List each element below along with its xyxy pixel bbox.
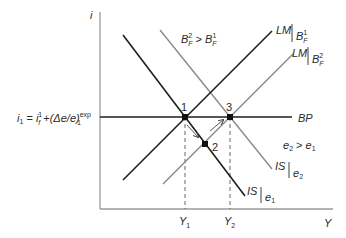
- point-1-label: 1: [181, 101, 187, 113]
- y-axis-label: i: [90, 9, 93, 21]
- svg-text:B2F > B1F: B2F > B1F: [181, 32, 217, 47]
- x-axis-label: Y: [324, 217, 332, 229]
- svg-text:LM: LM: [276, 24, 292, 36]
- lm1-curve: [123, 31, 272, 180]
- lm2-label: LM B2F: [292, 47, 324, 67]
- is-lm-bp-diagram: i Y 1 2 3 BP i1 = i1f +(Δe/e)exp1: [0, 0, 346, 238]
- svg-text:e2 > e1: e2 > e1: [283, 139, 316, 152]
- point-2-label: 2: [212, 141, 218, 153]
- e-comparison-annotation: e2 > e1: [283, 139, 316, 152]
- svg-text:B2F: B2F: [312, 52, 324, 67]
- y2-tick-label: Y2: [224, 215, 235, 229]
- point-3-marker: [227, 114, 233, 120]
- point-3-label: 3: [226, 101, 232, 113]
- svg-text:LM: LM: [292, 47, 308, 59]
- y1-tick-label: Y1: [179, 215, 190, 229]
- svg-text:i1 = i1f +(Δe/e)exp1: i1 = i1f +(Δe/e)exp1: [17, 111, 91, 126]
- diagram-canvas: i Y 1 2 3 BP i1 = i1f +(Δe/e)exp1: [0, 0, 346, 238]
- bf-comparison-annotation: B2F > B1F: [181, 32, 217, 47]
- svg-text:IS: IS: [247, 185, 258, 197]
- bp-label: BP: [298, 112, 313, 124]
- is2-label: IS e2: [275, 160, 303, 180]
- svg-text:Y2: Y2: [224, 215, 235, 229]
- point-1-marker: [182, 114, 188, 120]
- is1-label: IS e1: [247, 185, 275, 204]
- svg-text:B1F: B1F: [296, 29, 308, 44]
- lm1-label: LM B1F: [276, 24, 308, 44]
- interest-rate-equation: i1 = i1f +(Δe/e)exp1: [17, 111, 91, 126]
- svg-text:Y1: Y1: [179, 215, 190, 229]
- svg-text:IS: IS: [275, 160, 286, 172]
- svg-text:e2: e2: [293, 167, 303, 180]
- point-2-marker: [202, 141, 208, 147]
- svg-text:e1: e1: [265, 191, 275, 204]
